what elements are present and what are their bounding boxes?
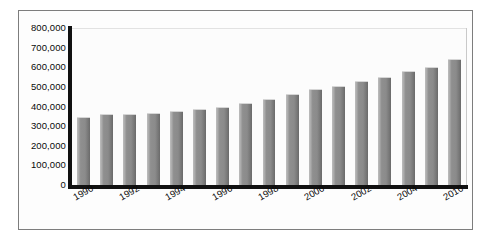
bar[interactable] bbox=[402, 71, 415, 185]
x-axis-tick-label: 2000 bbox=[302, 182, 326, 202]
bar[interactable] bbox=[448, 59, 461, 185]
bar-slot bbox=[373, 28, 396, 185]
bar[interactable] bbox=[378, 77, 391, 185]
x-axis-tick-labels: 199019921994199619982000200220042010 bbox=[72, 185, 472, 240]
x-axis-tick-label: 1996 bbox=[210, 182, 234, 202]
bar[interactable] bbox=[263, 99, 276, 185]
bar-slot bbox=[95, 28, 118, 185]
bar-slot bbox=[188, 28, 211, 185]
x-axis-tick-label: 1990 bbox=[71, 182, 95, 202]
bar[interactable] bbox=[100, 114, 113, 185]
y-axis-tick-label: 100,000 bbox=[2, 160, 66, 170]
bar-slot bbox=[420, 28, 443, 185]
x-axis-tick-label: 1998 bbox=[256, 182, 280, 202]
bar-slot bbox=[234, 28, 257, 185]
bar[interactable] bbox=[77, 117, 90, 185]
bar[interactable] bbox=[332, 86, 345, 185]
y-axis-tick-label: 600,000 bbox=[2, 62, 66, 72]
bar[interactable] bbox=[355, 81, 368, 185]
bar[interactable] bbox=[239, 103, 252, 185]
bar-slot bbox=[165, 28, 188, 185]
bar-slot bbox=[350, 28, 373, 185]
bar-slot bbox=[211, 28, 234, 185]
plot-right-edge bbox=[466, 28, 467, 185]
bar[interactable] bbox=[309, 89, 322, 185]
y-axis-tick-label: 200,000 bbox=[2, 141, 66, 151]
y-axis-tick-label: 300,000 bbox=[2, 121, 66, 131]
bar[interactable] bbox=[425, 67, 438, 185]
bar-chart-figure: 800,000700,000600,000500,000400,000300,0… bbox=[0, 0, 493, 240]
bar-slot bbox=[443, 28, 466, 185]
y-axis-tick-label: 700,000 bbox=[2, 43, 66, 53]
bar-series bbox=[72, 28, 466, 185]
bar[interactable] bbox=[286, 94, 299, 185]
y-axis-tick-label: 400,000 bbox=[2, 102, 66, 112]
x-axis-tick-label: 2002 bbox=[349, 182, 373, 202]
bar-slot bbox=[72, 28, 95, 185]
bar[interactable] bbox=[216, 107, 229, 185]
y-axis-line bbox=[68, 26, 72, 187]
y-axis-tick-labels: 800,000700,000600,000500,000400,000300,0… bbox=[0, 0, 66, 240]
x-axis-tick-label: 2004 bbox=[395, 182, 419, 202]
bar-slot bbox=[304, 28, 327, 185]
bar-slot bbox=[327, 28, 350, 185]
bar[interactable] bbox=[193, 109, 206, 185]
x-axis-tick-label: 2010 bbox=[441, 182, 465, 202]
y-axis-tick-label: 500,000 bbox=[2, 82, 66, 92]
bar-slot bbox=[257, 28, 280, 185]
bar-slot bbox=[281, 28, 304, 185]
y-axis-tick-label: 800,000 bbox=[2, 23, 66, 33]
x-axis-tick-label: 1992 bbox=[117, 182, 141, 202]
bar-slot bbox=[396, 28, 419, 185]
bar-slot bbox=[142, 28, 165, 185]
bar-slot bbox=[118, 28, 141, 185]
bar[interactable] bbox=[170, 111, 183, 185]
bar[interactable] bbox=[123, 114, 136, 185]
y-axis-tick-label: 0 bbox=[2, 180, 66, 190]
x-axis-tick-label: 1994 bbox=[163, 182, 187, 202]
bar[interactable] bbox=[147, 113, 160, 185]
